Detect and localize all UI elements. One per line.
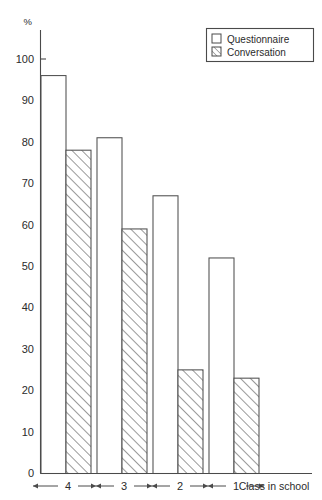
bar-conversation-class-2 <box>178 370 203 474</box>
y-tick-label-10: 10 <box>22 426 34 438</box>
chart-legend: Questionnaire Conversation <box>207 29 314 62</box>
y-tick-label-20: 20 <box>22 384 34 396</box>
chart-canvas: 100 90 80 70 60 50 40 30 20 10 0 % <box>0 0 322 500</box>
y-tick-label-80: 80 <box>22 136 34 148</box>
bar-questionnaire-class-1 <box>209 258 234 474</box>
x-axis-title: Class in school <box>239 480 310 492</box>
y-tick-label-50: 50 <box>22 260 34 272</box>
legend-label-questionnaire: Questionnaire <box>227 34 290 45</box>
y-axis-unit-label: % <box>24 16 33 27</box>
y-tick-label-100: 100 <box>16 53 34 65</box>
hatched-square-icon <box>212 47 221 56</box>
y-tick-label-40: 40 <box>22 301 34 313</box>
bar-conversation-class-3 <box>122 229 147 474</box>
bar-questionnaire-class-4 <box>41 76 66 474</box>
bar-conversation-class-1 <box>234 378 259 473</box>
x-tick-label-class-4: 4 <box>65 480 71 492</box>
y-tick-label-70: 70 <box>22 177 34 189</box>
legend-label-conversation: Conversation <box>227 47 286 58</box>
open-square-icon <box>212 34 221 43</box>
bar-questionnaire-class-3 <box>97 138 122 474</box>
x-tick-label-class-2: 2 <box>177 480 183 492</box>
y-tick-label-60: 60 <box>22 219 34 231</box>
y-tick-label-30: 30 <box>22 343 34 355</box>
y-tick-label-0: 0 <box>28 467 34 479</box>
x-tick-label-class-3: 3 <box>121 480 127 492</box>
bar-chart-figure: 100 90 80 70 60 50 40 30 20 10 0 % <box>0 0 322 500</box>
bar-conversation-class-4 <box>66 150 91 473</box>
y-tick-label-90: 90 <box>22 94 34 106</box>
bar-questionnaire-class-2 <box>153 196 178 474</box>
